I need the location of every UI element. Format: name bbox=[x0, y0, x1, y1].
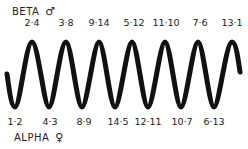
alpha-label: ALPHA bbox=[14, 132, 49, 143]
alpha-pair-label: 6·13 bbox=[203, 116, 224, 127]
alpha-pair-label: 12·11 bbox=[134, 116, 161, 127]
alpha-pair-label: 8·9 bbox=[76, 116, 91, 127]
alpha-pair-label: 10·7 bbox=[171, 116, 192, 127]
alpha-title: ALPHA♀ bbox=[14, 131, 64, 144]
female-symbol-icon: ♀ bbox=[55, 131, 64, 144]
wave-curve bbox=[7, 42, 240, 107]
alpha-pair-label: 1·2 bbox=[7, 116, 22, 127]
alpha-pair-label: 4·3 bbox=[42, 116, 57, 127]
alpha-pair-label: 14·5 bbox=[107, 116, 128, 127]
